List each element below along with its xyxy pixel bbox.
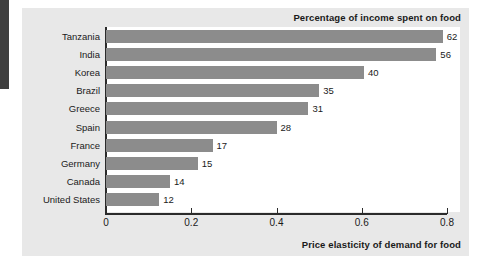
x-tick-label: 0.8 bbox=[440, 217, 454, 228]
bar bbox=[106, 30, 443, 43]
x-tick-label: 0.6 bbox=[355, 217, 369, 228]
category-label: Greece bbox=[69, 102, 100, 115]
bar bbox=[106, 66, 364, 79]
category-label: Brazil bbox=[76, 84, 100, 97]
bar-value-label: 12 bbox=[163, 193, 174, 206]
bar bbox=[106, 157, 198, 170]
bar-value-label: 17 bbox=[217, 139, 228, 152]
bar bbox=[106, 48, 436, 61]
x-tick-mark bbox=[447, 208, 448, 214]
chart-panel: Percentage of income spent on food 00.20… bbox=[22, 8, 469, 256]
chart-title: Percentage of income spent on food bbox=[293, 12, 461, 23]
category-label: Canada bbox=[67, 175, 100, 188]
bar-value-label: 28 bbox=[281, 121, 292, 134]
bar bbox=[106, 84, 319, 97]
category-label: Korea bbox=[75, 66, 100, 79]
bar-value-label: 62 bbox=[447, 30, 458, 43]
page-edge-strip bbox=[0, 0, 9, 89]
category-label: United States bbox=[43, 193, 100, 206]
bar bbox=[106, 175, 170, 188]
x-tick-mark bbox=[191, 208, 192, 214]
category-label: France bbox=[70, 139, 100, 152]
bar-value-label: 56 bbox=[440, 48, 451, 61]
x-tick-label: 0 bbox=[103, 217, 109, 228]
x-tick-mark bbox=[106, 208, 107, 214]
bar bbox=[106, 102, 308, 115]
x-tick-mark bbox=[362, 208, 363, 214]
x-axis-label: Price elasticity of demand for food bbox=[302, 239, 461, 250]
bar-value-label: 31 bbox=[312, 102, 323, 115]
bar bbox=[106, 193, 159, 206]
bar bbox=[106, 121, 277, 134]
category-label: Germany bbox=[61, 157, 100, 170]
x-tick-mark bbox=[277, 208, 278, 214]
x-tick-label: 0.2 bbox=[184, 217, 198, 228]
bar-value-label: 40 bbox=[368, 66, 379, 79]
x-tick-label: 0.4 bbox=[270, 217, 284, 228]
category-label: Spain bbox=[76, 121, 100, 134]
bar-value-label: 35 bbox=[323, 84, 334, 97]
bar bbox=[106, 139, 213, 152]
category-label: Tanzania bbox=[62, 30, 100, 43]
bar-value-label: 14 bbox=[174, 175, 185, 188]
category-label: India bbox=[79, 48, 100, 61]
bar-value-label: 15 bbox=[202, 157, 213, 170]
